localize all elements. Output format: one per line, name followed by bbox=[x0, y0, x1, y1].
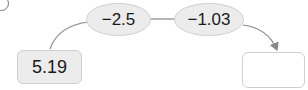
start-value: 5.19 bbox=[32, 57, 67, 78]
operation-node-2: −1.03 bbox=[174, 3, 244, 36]
operation-node-1: −2.5 bbox=[86, 3, 151, 36]
connector-op2-to-result bbox=[243, 25, 277, 50]
start-value-box: 5.19 bbox=[17, 50, 82, 84]
connector-start-to-op1 bbox=[50, 22, 88, 49]
operation-label: −2.5 bbox=[102, 10, 136, 30]
answer-box[interactable] bbox=[242, 52, 305, 88]
operation-label: −1.03 bbox=[187, 10, 230, 30]
